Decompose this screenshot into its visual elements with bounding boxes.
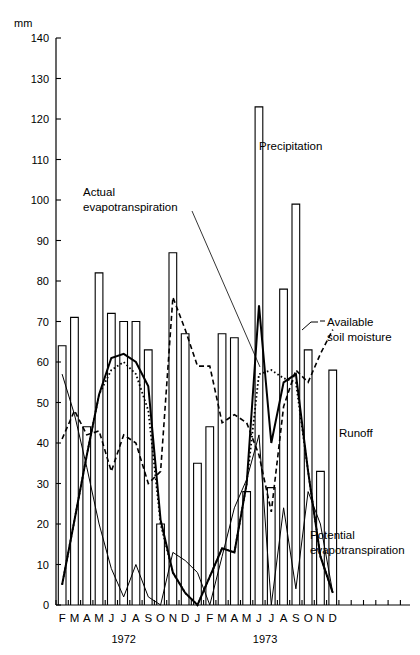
- y-axis-tick-label: 100: [31, 194, 49, 206]
- month-label: M: [94, 612, 104, 624]
- y-axis-tick-label: 80: [37, 275, 49, 287]
- precipitation-bar: [280, 289, 288, 605]
- month-label: J: [195, 612, 201, 624]
- y-axis-tick-label: 130: [31, 73, 49, 85]
- water-balance-chart: mm 0102030405060708090100110120130140 FM…: [0, 0, 420, 655]
- y-axis-tick-label: 70: [37, 316, 49, 328]
- month-label: F: [206, 612, 213, 624]
- month-label: M: [217, 612, 227, 624]
- y-axis-tick-label: 60: [37, 356, 49, 368]
- chart-container: mm 0102030405060708090100110120130140 FM…: [0, 0, 420, 655]
- month-label: N: [169, 612, 177, 624]
- month-label: A: [132, 612, 140, 624]
- precipitation-bar: [218, 334, 226, 605]
- y-axis-tick-label: 140: [31, 32, 49, 44]
- month-label: S: [292, 612, 300, 624]
- annotation-leaders: [192, 211, 325, 367]
- y-axis-unit-label: mm: [14, 17, 32, 29]
- x-axis-year-labels: 19721973: [111, 633, 277, 645]
- y-axis-tick-label: 10: [37, 559, 49, 571]
- month-label: D: [329, 612, 337, 624]
- month-label: M: [242, 612, 252, 624]
- month-label: S: [144, 612, 152, 624]
- y-axis-tick-label: 50: [37, 397, 49, 409]
- precipitation-bar: [95, 273, 103, 605]
- label-available-soil-moisture-line2: soil moisture: [327, 331, 392, 343]
- y-axis-tick-label: 40: [37, 437, 49, 449]
- y-axis-tick-label: 20: [37, 518, 49, 530]
- precipitation-bar: [292, 204, 300, 605]
- y-axis-tick-label: 30: [37, 478, 49, 490]
- precipitation-bar: [243, 492, 251, 605]
- month-label: A: [231, 612, 239, 624]
- precipitation-bar: [71, 317, 79, 605]
- x-axis-month-labels: FMAMJJASONDJFMAMJJASOND: [59, 612, 337, 624]
- precipitation-bar: [194, 463, 202, 605]
- month-label: J: [268, 612, 274, 624]
- y-axis: 0102030405060708090100110120130140: [31, 32, 61, 611]
- month-label: J: [121, 612, 127, 624]
- precipitation-bars: [58, 107, 336, 605]
- label-potential-evapotranspiration-line2: evapotranspiration: [310, 544, 405, 556]
- y-axis-tick-label: 90: [37, 235, 49, 247]
- label-runoff: Runoff: [339, 427, 373, 439]
- month-label: F: [59, 612, 66, 624]
- precipitation-bar: [181, 334, 189, 605]
- month-label: O: [156, 612, 165, 624]
- month-label: J: [108, 612, 114, 624]
- y-axis-tick-label: 0: [43, 599, 49, 611]
- label-precipitation: Precipitation: [259, 140, 322, 152]
- month-label: A: [280, 612, 288, 624]
- y-axis-tick-label: 110: [31, 154, 49, 166]
- label-actual-evapotranspiration-line1: Actual: [83, 186, 115, 198]
- year-label: 1972: [111, 633, 135, 645]
- label-potential-evapotranspiration-line1: Potential: [310, 529, 355, 541]
- label-actual-evapotranspiration-line2: evapotranspiration: [83, 201, 178, 213]
- x-axis: [56, 600, 410, 605]
- precipitation-bar: [231, 338, 239, 605]
- month-label: A: [83, 612, 91, 624]
- y-axis-tick-label: 120: [31, 113, 49, 125]
- month-label: N: [316, 612, 324, 624]
- label-available-soil-moisture-line1: Available: [327, 316, 373, 328]
- month-label: M: [70, 612, 80, 624]
- precipitation-bar: [329, 370, 337, 605]
- month-label: D: [181, 612, 189, 624]
- year-label: 1973: [253, 633, 277, 645]
- month-label: O: [304, 612, 313, 624]
- month-label: J: [256, 612, 262, 624]
- available-soil-moisture-leader: [302, 322, 318, 330]
